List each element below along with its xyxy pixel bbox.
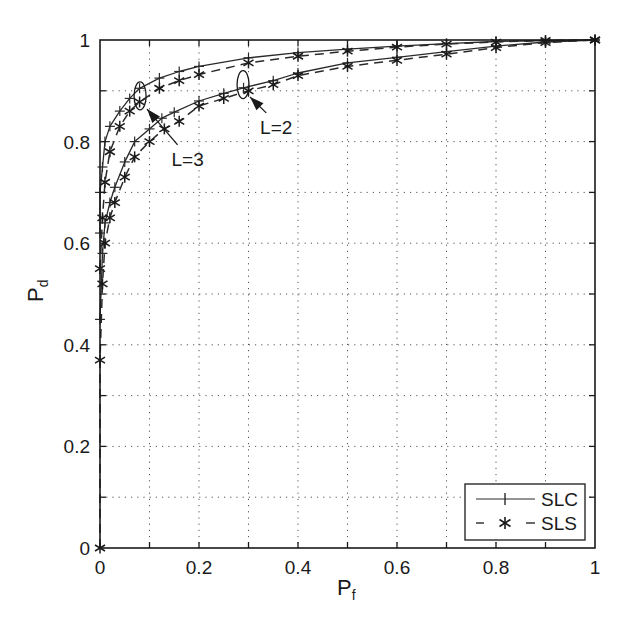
series-slc-l2 <box>95 35 600 324</box>
y-tick-label: 1 <box>79 30 90 51</box>
legend: SLC SLS <box>465 484 585 540</box>
x-tick-label: 0 <box>95 557 106 578</box>
x-tick-label: 0.2 <box>186 557 212 578</box>
legend-label-sls: SLS <box>541 513 577 534</box>
x-tick-label: 1 <box>590 557 601 578</box>
plot-curves <box>95 35 600 554</box>
y-tick-label: 0.8 <box>64 132 90 153</box>
y-tick-label: 0 <box>79 538 90 559</box>
x-tick-label: 0.4 <box>285 557 312 578</box>
annotation-l2: L=2 <box>237 71 292 138</box>
y-tick-label: 0.6 <box>64 233 90 254</box>
roc-chart: L=3L=2 00.20.40.60.8100.20.40.60.81 Pf P… <box>0 0 627 634</box>
x-tick-label: 0.6 <box>384 557 410 578</box>
annotation-label: L=2 <box>260 117 292 138</box>
annotation-label: L=3 <box>171 149 203 170</box>
x-axis-label: Pf <box>337 575 356 603</box>
annotations: L=3L=2 <box>134 71 292 170</box>
x-tick-label: 0.8 <box>483 557 509 578</box>
legend-label-slc: SLC <box>541 489 578 510</box>
y-axis-label: Pd <box>23 280 51 302</box>
y-tick-label: 0.2 <box>64 436 90 457</box>
y-tick-label: 0.4 <box>64 335 91 356</box>
